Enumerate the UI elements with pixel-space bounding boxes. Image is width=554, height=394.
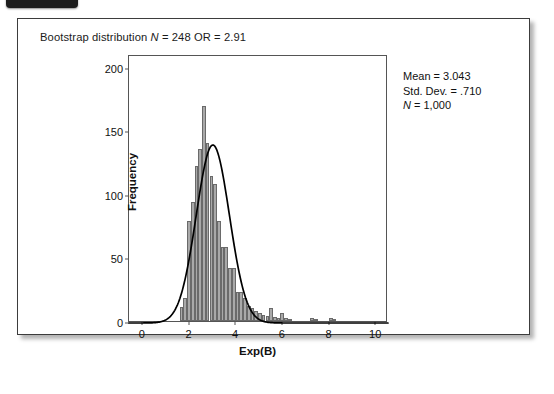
figure-card: Bootstrap distribution N = 248 OR = 2.91… [17, 18, 530, 335]
x-tick-mark [141, 321, 142, 325]
stats-annotation: Mean = 3.043 Std. Dev. = .710 N = 1,000 [403, 69, 481, 113]
x-tick-label: 6 [279, 328, 285, 340]
histogram-bar [333, 319, 337, 321]
plot-frame: Frequency 050100150200 0246810 Exp(B) [128, 55, 387, 322]
y-axis-label: Frequency [126, 153, 138, 211]
x-tick-mark [328, 321, 329, 325]
stats-n-value: = 1,000 [411, 99, 451, 111]
histogram-bar [314, 319, 318, 321]
corner-badge [6, 0, 78, 8]
x-tick-mark [235, 321, 236, 325]
x-tick-label: 4 [232, 328, 238, 340]
stats-n-symbol: N [403, 99, 411, 111]
x-axis-label: Exp(B) [239, 345, 276, 357]
y-tick-mark [125, 68, 129, 69]
histogram-bar [288, 319, 292, 321]
plot-area: Frequency 050100150200 0246810 Exp(B) [18, 19, 531, 336]
y-tick-mark [125, 195, 129, 196]
y-tick-mark [125, 323, 129, 324]
stats-mean: Mean = 3.043 [403, 69, 481, 84]
x-tick-label: 0 [139, 328, 145, 340]
x-tick-mark [375, 321, 376, 325]
x-tick-label: 8 [325, 328, 331, 340]
x-tick-label: 2 [185, 328, 191, 340]
x-tick-label: 10 [369, 328, 381, 340]
y-tick-mark [125, 259, 129, 260]
y-tick-mark [125, 132, 129, 133]
normal-curve [129, 56, 388, 323]
stats-n: N = 1,000 [403, 98, 481, 113]
stats-std-dev: Std. Dev. = .710 [403, 84, 481, 99]
x-tick-mark [281, 321, 282, 325]
x-tick-mark [188, 321, 189, 325]
